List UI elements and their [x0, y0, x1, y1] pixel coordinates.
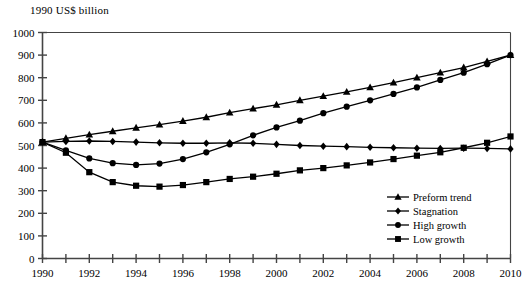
- data-point-diamond: [344, 143, 350, 151]
- y-tick-label: 100: [18, 230, 35, 242]
- data-point-square: [367, 159, 373, 165]
- series-layer: [39, 51, 515, 190]
- data-point-diamond: [297, 142, 303, 150]
- y-tick-label: 600: [18, 117, 35, 129]
- data-point-circle: [250, 132, 256, 138]
- data-point-square: [156, 184, 162, 190]
- y-tick-label: 900: [18, 49, 35, 61]
- data-point-square: [273, 171, 279, 177]
- data-point-square: [461, 145, 467, 151]
- legend-item-high-growth: High growth: [385, 218, 515, 232]
- x-tick-label: 2010: [500, 267, 523, 279]
- x-tick-label: 2006: [406, 267, 429, 279]
- data-point-square: [344, 162, 350, 168]
- x-tick-label: 1998: [219, 267, 242, 279]
- legend-item-stagnation: Stagnation: [385, 204, 515, 218]
- data-point-circle: [367, 97, 373, 103]
- data-point-square: [437, 149, 443, 155]
- x-tick-label: 2004: [359, 267, 382, 279]
- y-tick-label: 500: [18, 140, 35, 152]
- data-point-diamond: [156, 139, 162, 147]
- legend-item-preform-trend: Preform trend: [385, 190, 515, 204]
- data-point-circle: [110, 160, 116, 166]
- data-point-diamond: [320, 142, 326, 150]
- data-point-square: [390, 156, 396, 162]
- legend-marker-diamond-icon: [385, 204, 411, 218]
- data-point-square: [110, 179, 116, 185]
- line-chart-plot: 0100200300400500600700800900100019901992…: [0, 0, 529, 300]
- data-point-square: [414, 153, 420, 159]
- data-point-circle: [273, 124, 279, 130]
- x-tick-label: 1990: [32, 267, 55, 279]
- data-point-square: [133, 183, 139, 189]
- legend-item-low-growth: Low growth: [385, 232, 515, 246]
- data-point-circle: [414, 84, 420, 90]
- data-point-diamond: [367, 144, 373, 152]
- x-tick-label: 1996: [172, 267, 195, 279]
- x-tick-label: 2008: [453, 267, 476, 279]
- data-point-circle: [437, 77, 443, 83]
- data-point-square: [203, 179, 209, 185]
- legend-label: High growth: [411, 220, 466, 231]
- legend-marker-circle-icon: [385, 218, 411, 232]
- data-point-diamond: [507, 145, 513, 153]
- data-point-diamond: [250, 139, 256, 147]
- legend-label: Stagnation: [411, 206, 458, 217]
- y-tick-label: 400: [18, 162, 35, 174]
- data-point-circle: [297, 118, 303, 124]
- series-preform-trend: [39, 51, 515, 145]
- data-point-circle: [320, 110, 326, 116]
- data-point-diamond: [390, 144, 396, 152]
- data-point-circle: [390, 91, 396, 97]
- data-point-circle: [395, 222, 401, 228]
- legend-label: Preform trend: [411, 192, 472, 203]
- data-point-circle: [344, 104, 350, 110]
- data-point-diamond: [86, 137, 92, 145]
- data-point-square: [180, 182, 186, 188]
- y-tick-label: 1000: [13, 27, 36, 39]
- data-point-square: [395, 236, 401, 242]
- data-point-circle: [484, 61, 490, 67]
- data-point-square: [507, 133, 513, 139]
- legend-marker-square-icon: [385, 232, 411, 246]
- y-tick-label: 700: [18, 94, 35, 106]
- x-tick-label: 1994: [125, 267, 148, 279]
- legend-label: Low growth: [411, 234, 465, 245]
- x-tick-label: 2002: [312, 267, 334, 279]
- data-point-square: [86, 169, 92, 175]
- x-tick-label: 2000: [266, 267, 289, 279]
- data-point-diamond: [133, 138, 139, 146]
- data-point-square: [484, 140, 490, 146]
- data-point-diamond: [203, 139, 209, 147]
- data-point-circle: [461, 70, 467, 76]
- data-point-square: [227, 176, 233, 182]
- data-point-square: [63, 150, 69, 156]
- legend-marker-triangle-icon: [385, 190, 411, 204]
- data-point-circle: [133, 162, 139, 168]
- data-point-diamond: [273, 141, 279, 149]
- data-point-diamond: [414, 144, 420, 152]
- data-point-circle: [156, 160, 162, 166]
- data-point-diamond: [180, 139, 186, 147]
- data-point-diamond: [395, 207, 401, 214]
- chart-legend: Preform trendStagnationHigh growthLow gr…: [385, 190, 515, 246]
- data-point-square: [39, 139, 45, 145]
- data-point-circle: [86, 155, 92, 161]
- chart-container: 1990 US$ billion 01002003004005006007008…: [0, 0, 529, 300]
- y-tick-label: 200: [18, 207, 35, 219]
- data-point-circle: [227, 141, 233, 147]
- data-point-diamond: [110, 138, 116, 146]
- y-tick-label: 800: [18, 72, 35, 84]
- data-point-square: [320, 165, 326, 171]
- y-tick-label: 0: [29, 253, 35, 265]
- data-point-circle: [203, 149, 209, 155]
- y-tick-label: 300: [18, 185, 35, 197]
- data-point-square: [250, 174, 256, 180]
- x-tick-label: 1992: [78, 267, 100, 279]
- data-point-circle: [507, 52, 513, 58]
- data-point-circle: [180, 156, 186, 162]
- data-point-square: [297, 167, 303, 173]
